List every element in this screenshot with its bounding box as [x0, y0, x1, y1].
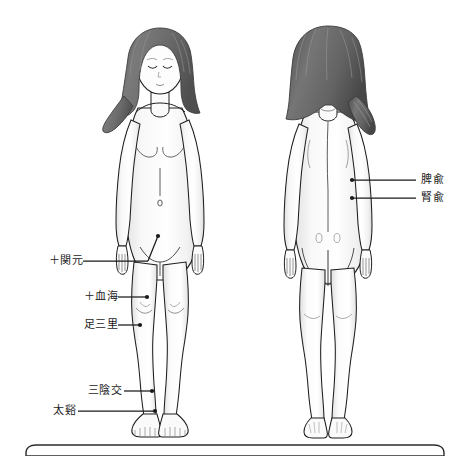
point-ashisanri: [138, 323, 142, 327]
back-leg-left: [300, 268, 325, 420]
label-hiyu: 脾兪: [421, 173, 444, 186]
front-figure: [103, 28, 204, 437]
front-leg-right: [163, 262, 188, 416]
back-foot-left: [304, 418, 327, 438]
label-jinyu: 腎兪: [421, 191, 444, 204]
point-kangen: [156, 234, 160, 238]
point-kekkai: [145, 295, 149, 299]
label-taikei: 太谿: [0, 404, 76, 417]
point-jinyu: [350, 196, 354, 200]
point-saninko: [150, 389, 154, 393]
acupoint-diagram: ＋関元 ＋血海 足三里 三陰交 太谿 脾兪 腎兪: [0, 0, 469, 456]
back-figure: [284, 26, 375, 438]
back-foot-right: [329, 418, 352, 438]
back-leg-right: [331, 268, 356, 420]
label-kekkai: ＋血海: [0, 290, 118, 303]
front-foot-right: [159, 414, 189, 437]
point-hiyu: [350, 178, 354, 182]
front-leg-left: [132, 262, 157, 416]
front-neck: [151, 92, 169, 117]
front-foot-left: [132, 414, 162, 437]
point-taikei: [153, 409, 157, 413]
label-ashisanri: 足三里: [0, 318, 118, 331]
label-kangen: ＋関元: [0, 254, 83, 267]
label-saninko: 三陰交: [0, 384, 122, 397]
bottom-panel-frame: [26, 445, 444, 456]
